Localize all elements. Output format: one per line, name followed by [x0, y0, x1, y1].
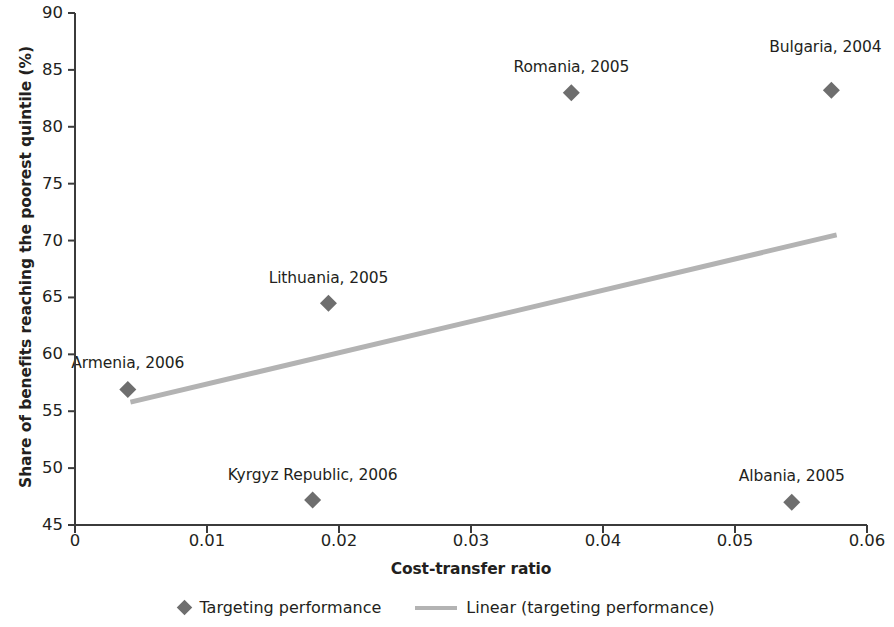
- legend-label-targeting-performance: Targeting performance: [199, 598, 381, 617]
- diamond-icon: [177, 600, 193, 616]
- trendline: [130, 235, 836, 402]
- data-point-marker[interactable]: [119, 381, 136, 398]
- legend-item-linear-trendline: Linear (targeting performance): [415, 598, 714, 617]
- data-point-marker[interactable]: [304, 491, 321, 508]
- data-point-marker[interactable]: [783, 494, 800, 511]
- data-point-marker[interactable]: [823, 82, 840, 99]
- plot-area: [0, 0, 894, 627]
- chart-legend: Targeting performance Linear (targeting …: [0, 598, 894, 617]
- legend-label-linear-trendline: Linear (targeting performance): [466, 598, 714, 617]
- line-icon: [415, 606, 457, 610]
- data-point-marker[interactable]: [563, 84, 580, 101]
- data-point-marker[interactable]: [320, 295, 337, 312]
- scatter-chart: Share of benefits reaching the poorest q…: [0, 0, 894, 627]
- legend-item-targeting-performance: Targeting performance: [179, 598, 381, 617]
